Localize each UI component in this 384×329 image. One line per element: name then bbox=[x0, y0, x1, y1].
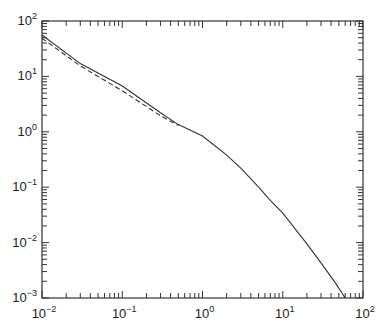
tick-labels: 10−210−110010110210−310−210−1100101102 bbox=[12, 11, 374, 321]
plot-frame bbox=[42, 21, 363, 298]
log-log-line-chart: 10−210−110010110210−310−210−1100101102 bbox=[0, 0, 384, 329]
y-tick-label: 102 bbox=[18, 11, 37, 28]
x-tick-label: 10−2 bbox=[32, 304, 57, 321]
y-tick-label: 10−2 bbox=[12, 233, 37, 250]
x-tick-label: 100 bbox=[195, 304, 214, 321]
axis-ticks bbox=[42, 21, 363, 298]
y-tick-label: 100 bbox=[18, 122, 37, 139]
series-solid-line bbox=[42, 35, 345, 298]
x-tick-label: 102 bbox=[355, 304, 374, 321]
y-tick-label: 10−3 bbox=[12, 288, 37, 305]
plot-series bbox=[42, 35, 345, 298]
y-tick-label: 10−1 bbox=[12, 177, 37, 194]
series-dashed-line bbox=[42, 38, 178, 125]
y-tick-label: 101 bbox=[18, 66, 37, 83]
x-tick-label: 101 bbox=[275, 304, 294, 321]
x-tick-label: 10−1 bbox=[112, 304, 137, 321]
